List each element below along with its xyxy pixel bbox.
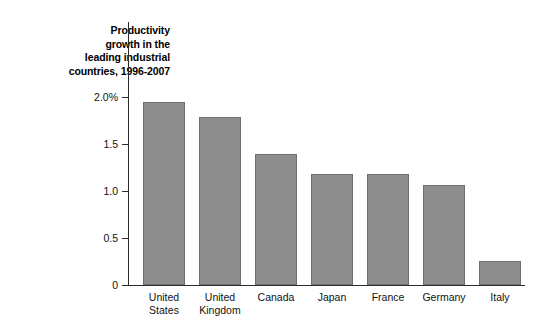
bar-united-states — [143, 102, 185, 285]
y-tick-mark — [122, 144, 128, 145]
bar-germany — [423, 185, 465, 285]
y-tick-mark — [122, 191, 128, 192]
bar-italy — [479, 261, 521, 285]
y-tick-label: 1.0 — [74, 186, 118, 197]
y-tick-label-wrap: 0.5 — [70, 233, 118, 244]
productivity-bar-chart: Productivity growth in the leading indus… — [0, 0, 533, 328]
plot-area — [129, 22, 525, 285]
y-tick-mark — [122, 97, 128, 98]
y-tick-mark — [122, 285, 128, 286]
y-tick-label-wrap: 1.0 — [70, 186, 118, 197]
y-tick-label: 0.5 — [74, 233, 118, 244]
y-tick-label: 0 — [74, 280, 118, 291]
bar-france — [367, 174, 409, 285]
bar-united-kingdom — [199, 117, 241, 285]
y-tick-label-wrap: 2.0% — [70, 92, 118, 103]
bar-canada — [255, 154, 297, 285]
y-tick-label: 2.0% — [74, 92, 118, 103]
x-axis-line — [128, 285, 525, 286]
y-tick-mark — [122, 238, 128, 239]
y-tick-label-wrap: 0 — [70, 280, 118, 291]
y-tick-label: 1.5 — [74, 139, 118, 150]
bar-japan — [311, 174, 353, 285]
y-tick-label-wrap: 1.5 — [70, 139, 118, 150]
x-axis-label-italy: Italy — [465, 291, 533, 304]
